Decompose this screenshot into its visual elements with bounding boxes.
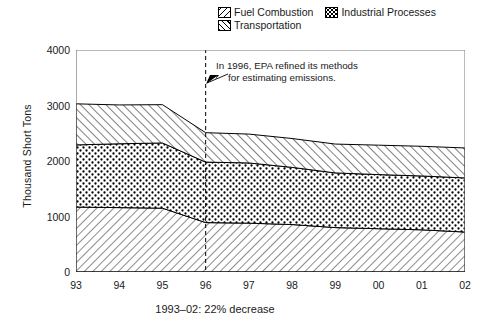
x-tick-02: 02 — [459, 279, 471, 291]
x-tick-95: 95 — [157, 279, 169, 291]
legend-item-industrial-processes: Industrial Processes — [325, 6, 436, 19]
x-tick-98: 98 — [286, 279, 298, 291]
x-axis-tick-labels: 93949596979899000102 — [0, 279, 495, 295]
y-axis-tick-labels: 4000 3000 2000 1000 0 — [0, 50, 70, 272]
x-tick-00: 00 — [373, 279, 385, 291]
legend-label-industrial-processes: Industrial Processes — [341, 6, 436, 19]
legend-swatch-fuel-combustion-icon — [218, 7, 231, 18]
legend-label-fuel-combustion: Fuel Combustion — [234, 6, 313, 19]
annotation-line-1: In 1996, EPA refined its methods — [216, 60, 358, 73]
legend-row-bottom: Transportation — [218, 19, 488, 32]
legend-item-transportation: Transportation — [218, 19, 301, 32]
y-tick-1000: 1000 — [47, 211, 70, 223]
legend-swatch-transportation-icon — [218, 20, 231, 31]
x-tick-99: 99 — [329, 279, 341, 291]
chart-caption: 1993–02: 22% decrease — [0, 303, 430, 315]
chart-legend: Fuel Combustion Industrial Processes Tra… — [218, 6, 488, 32]
y-tick-3000: 3000 — [47, 100, 70, 112]
y-tick-4000: 4000 — [47, 44, 70, 56]
x-tick-96: 96 — [200, 279, 212, 291]
annotation-line-2: for estimating emissions. — [228, 72, 336, 85]
chart-figure: Fuel Combustion Industrial Processes Tra… — [0, 0, 495, 331]
legend-row-top: Fuel Combustion Industrial Processes — [218, 6, 488, 19]
x-tick-94: 94 — [113, 279, 125, 291]
annotation-arrow-icon — [204, 72, 232, 88]
legend-item-fuel-combustion: Fuel Combustion — [218, 6, 313, 19]
x-tick-01: 01 — [416, 279, 428, 291]
x-tick-97: 97 — [243, 279, 255, 291]
y-tick-2000: 2000 — [47, 155, 70, 167]
legend-swatch-industrial-processes-icon — [325, 7, 338, 18]
y-tick-0: 0 — [64, 266, 70, 278]
x-tick-93: 93 — [70, 279, 82, 291]
legend-label-transportation: Transportation — [234, 19, 301, 32]
